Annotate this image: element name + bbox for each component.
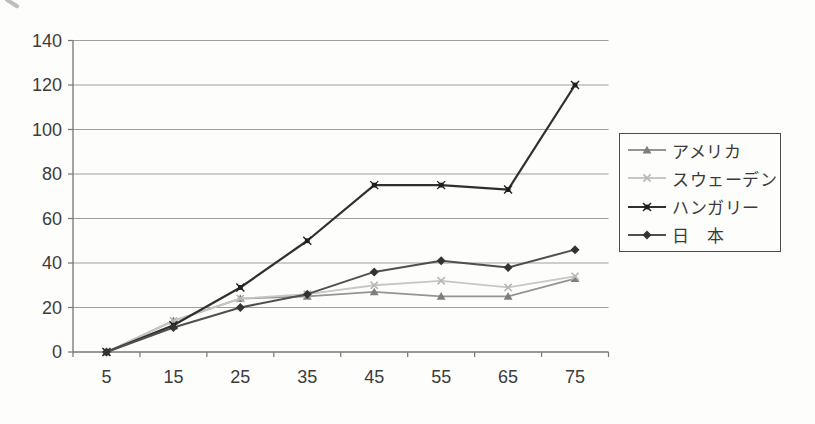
legend-label: アメリカ [672,138,741,163]
chart-figure: 020406080100120140515253545556575 アメリカスウ… [0,0,815,424]
y-axis-label: 140 [32,31,62,51]
y-axis-label: 120 [32,75,62,95]
legend-marker-icon [626,143,668,157]
legend-marker-icon [626,228,668,242]
diamond-marker [571,245,580,254]
y-axis-label: 20 [42,298,62,318]
chart-legend: アメリカスウェーデンハンガリー日 本 [619,133,781,252]
y-axis-label: 60 [42,209,62,229]
x-axis-label: 75 [565,367,585,387]
legend-marker-icon [626,200,668,214]
x-axis-label: 45 [364,367,384,387]
series-line-3 [106,250,575,352]
diamond-marker [504,263,513,272]
x-axis-label: 5 [101,367,111,387]
series-line-1 [106,276,575,352]
x-axis-label: 35 [297,367,317,387]
diamond-marker [437,256,446,265]
diamond-marker-legend [643,230,652,239]
x-axis-label: 25 [230,367,250,387]
diamond-marker [236,303,245,312]
x-axis-label: 55 [431,367,451,387]
y-axis-label: 80 [42,164,62,184]
x-axis-label: 65 [498,367,518,387]
legend-item-2: ハンガリー [620,193,780,221]
y-axis-label: 0 [52,342,62,362]
legend-item-3: 日 本 [620,221,780,249]
legend-item-1: スウェーデン [620,164,780,192]
legend-label: スウェーデン [672,166,777,191]
diamond-marker [370,267,379,276]
legend-marker-icon [626,171,668,185]
legend-label: ハンガリー [672,194,760,219]
y-axis-label: 40 [42,253,62,273]
x-axis-label: 15 [163,367,183,387]
legend-item-0: アメリカ [620,136,780,164]
legend-label: 日 本 [672,222,725,247]
y-axis-label: 100 [32,120,62,140]
